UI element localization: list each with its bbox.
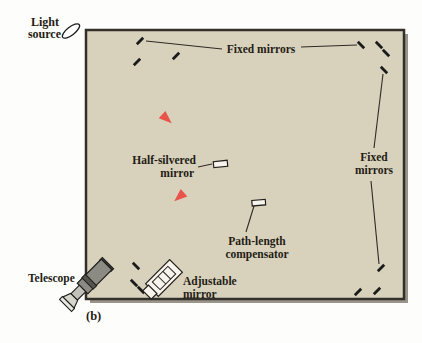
- label-adjustable-line1: Adjustable: [183, 275, 237, 288]
- label-half-silvered-line2: mirror: [160, 167, 194, 179]
- apparatus-diagram: Light source Fixed mirrors Fixed mirrors…: [0, 0, 422, 343]
- label-fixed-mirrors-top: Fixed mirrors: [227, 43, 296, 55]
- label-fixed-mirrors-right-line1: Fixed: [360, 151, 388, 163]
- label-telescope: Telescope: [28, 272, 75, 285]
- path-length-compensator: [252, 199, 266, 206]
- half-silvered-mirror: [213, 160, 228, 167]
- label-light-source-line2: source: [28, 27, 62, 41]
- label-half-silvered-line1: Half-silvered: [132, 154, 196, 166]
- label-path-length-line2: compensator: [225, 248, 288, 261]
- label-fixed-mirrors-right-line2: mirrors: [355, 164, 394, 176]
- figure-canvas: Light source Fixed mirrors Fixed mirrors…: [0, 0, 422, 343]
- label-adjustable-line2: mirror: [183, 288, 217, 300]
- light-source-lens: [60, 21, 81, 40]
- label-path-length-line1: Path-length: [228, 235, 286, 248]
- figure-caption: (b): [86, 309, 101, 323]
